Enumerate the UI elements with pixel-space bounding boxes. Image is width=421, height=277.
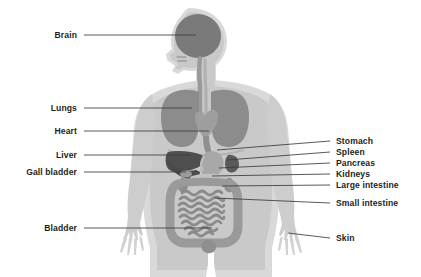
label-pancreas: Pancreas [336, 159, 375, 168]
organ-transverse-colon [178, 182, 230, 184]
anatomy-diagram: BrainLungsHeartLiverGall bladderBladderS… [0, 0, 421, 277]
label-skin: Skin [336, 234, 355, 243]
label-spleen: Spleen [336, 148, 365, 157]
label-kidneys: Kidneys [336, 170, 370, 179]
organ-esophagus [205, 60, 206, 118]
label-stomach: Stomach [336, 137, 373, 146]
organ-trachea [199, 58, 200, 112]
label-brain: Brain [55, 31, 77, 40]
label-heart: Heart [55, 127, 77, 136]
organ-brain [175, 14, 221, 58]
label-small-intestine: Small intestine [336, 199, 398, 208]
label-large-intestine: Large intestine [336, 181, 399, 190]
label-liver: Liver [56, 151, 77, 160]
label-gall-bladder: Gall bladder [26, 168, 77, 177]
label-bladder: Bladder [44, 224, 77, 233]
leader-line-skin [288, 233, 330, 238]
label-lungs: Lungs [51, 104, 77, 113]
